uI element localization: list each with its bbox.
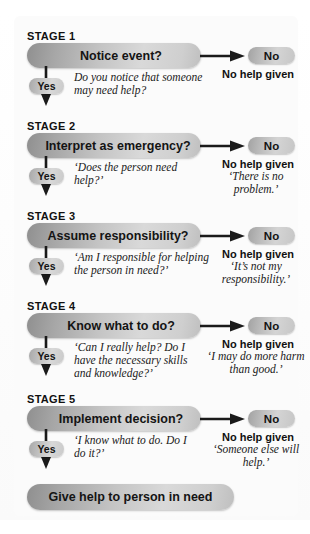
no-help-quote-2: ‘There is no problem.’ xyxy=(206,170,306,195)
no-pill-5[interactable]: No xyxy=(248,410,295,427)
final-outcome-pill[interactable]: Give help to person in need xyxy=(27,484,234,510)
no-help-given-4: No help given xyxy=(206,338,310,350)
stage-label-3: STAGE 3 xyxy=(27,210,75,222)
stage-question-1[interactable]: Notice event? xyxy=(27,43,201,68)
no-help-given-1: No help given xyxy=(206,68,310,80)
stage-label-4: STAGE 4 xyxy=(27,300,75,312)
arrow-right-2 xyxy=(200,139,248,153)
stage-question-5[interactable]: Implement decision? xyxy=(27,406,201,431)
no-help-given-3: No help given xyxy=(206,248,310,260)
arrow-right-3 xyxy=(200,229,248,243)
no-pill-2[interactable]: No xyxy=(248,137,295,154)
stage-label-1: STAGE 1 xyxy=(27,30,75,42)
yes-pill-4[interactable]: Yes xyxy=(29,348,64,364)
no-help-given-5: No help given xyxy=(206,431,310,443)
no-pill-1[interactable]: No xyxy=(248,47,295,64)
no-pill-4[interactable]: No xyxy=(248,317,295,334)
arrow-right-5 xyxy=(200,412,248,426)
no-help-quote-3: ‘It’s not my responsibility.’ xyxy=(206,260,306,285)
arrow-right-4 xyxy=(200,319,248,333)
arrow-right-1 xyxy=(200,49,248,63)
yes-pill-3[interactable]: Yes xyxy=(29,258,64,274)
stage-note-3: ‘Am I responsible for helping the person… xyxy=(74,251,212,277)
stage-label-5: STAGE 5 xyxy=(27,393,75,405)
stage-note-5: ‘I know what to do. Do I do it?’ xyxy=(74,434,200,460)
yes-pill-1[interactable]: Yes xyxy=(29,78,64,94)
stage-label-2: STAGE 2 xyxy=(27,120,75,132)
yes-pill-2[interactable]: Yes xyxy=(29,168,64,184)
no-pill-3[interactable]: No xyxy=(248,227,295,244)
no-help-quote-5: ‘Someone else will help.’ xyxy=(206,443,306,468)
no-help-given-2: No help given xyxy=(206,158,310,170)
no-help-quote-4: ‘I may do more harm than good.’ xyxy=(206,350,306,375)
stage-note-1: Do you notice that someone may need help… xyxy=(74,71,206,97)
yes-pill-5[interactable]: Yes xyxy=(29,441,64,457)
stage-note-4: ‘Can I really help? Do I have the necess… xyxy=(74,341,200,379)
stage-question-3[interactable]: Assume responsibility? xyxy=(27,223,201,248)
stage-question-2[interactable]: Interpret as emergency? xyxy=(27,133,201,158)
stage-question-4[interactable]: Know what to do? xyxy=(27,313,201,338)
stage-note-2: ‘Does the person need help?’ xyxy=(74,161,206,187)
